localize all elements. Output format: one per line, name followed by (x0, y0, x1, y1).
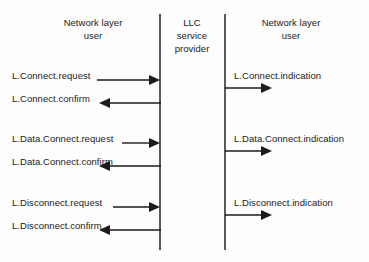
arrow-connect-confirm (98, 97, 161, 109)
message-label-disconnect-request: L.Disconnect.request (12, 197, 102, 208)
lifeline-provider-left (159, 14, 161, 250)
message-label-disconnect-confirm: L.Disconnect.confirm (12, 220, 102, 231)
column-header-network-layer-user-right: Network layer user (232, 16, 350, 42)
arrow-connect-request (97, 74, 161, 86)
message-label-connect-confirm: L.Connect.confirm (12, 93, 90, 104)
arrow-disconnect-confirm (98, 224, 161, 236)
arrow-data-connect-indication (225, 145, 273, 157)
sequence-diagram: Network layer user LLC service provider … (0, 0, 369, 262)
message-label-connect-request: L.Connect.request (12, 70, 90, 81)
arrow-disconnect-indication (225, 209, 273, 221)
column-header-network-layer-user-left: Network layer user (38, 16, 148, 42)
arrow-connect-indication (225, 82, 273, 94)
message-label-data-connect-indication: L.Data.Connect.indication (234, 133, 344, 144)
column-header-llc-service-provider: LLC service provider (162, 16, 222, 55)
arrow-data-connect-request (122, 137, 161, 149)
message-label-disconnect-indication: L.Disconnect.indication (234, 197, 333, 208)
arrow-data-connect-confirm (98, 160, 161, 172)
message-label-connect-indication: L.Connect.indication (234, 70, 321, 81)
message-label-data-connect-request: L.Data.Connect.request (12, 133, 113, 144)
arrow-disconnect-request (113, 201, 161, 213)
